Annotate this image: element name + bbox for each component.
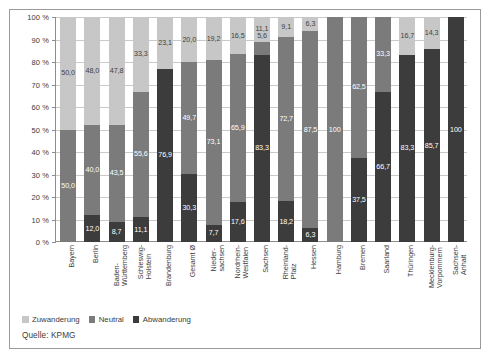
x-axis-category-label: Saarland	[383, 245, 391, 273]
bar-value-label: 49,7	[182, 114, 196, 121]
bar-value-label: 66,7	[376, 163, 390, 170]
bar-segment-abwanderung[interactable]: 6,3	[302, 228, 318, 242]
bar-segment-neutral[interactable]: 73,1	[206, 60, 222, 224]
bar-column[interactable]: 100Hamburg	[327, 17, 343, 241]
bar-value-label: 33,3	[376, 50, 390, 57]
y-axis-tick-label: 100 %	[27, 13, 49, 22]
x-axis-category-label: Nieder-sachsen	[210, 245, 226, 271]
bar-value-label: 19,2	[207, 35, 221, 42]
bar-segment-abwanderung[interactable]: 11,1	[133, 217, 149, 242]
bar-segment-neutral[interactable]: 5,6	[254, 42, 270, 55]
bar-segment-zuwanderung[interactable]: 50,0	[60, 17, 76, 130]
bar-column[interactable]: 9,172,718,2Rheinland-Pfalz	[278, 17, 294, 241]
bar-column[interactable]: 100Sachsen-Anhalt	[448, 17, 464, 241]
bar-value-label: 7,7	[209, 229, 219, 236]
bar-value-label: 8,7	[112, 228, 122, 235]
bar-segment-neutral[interactable]: 62,5	[351, 17, 367, 158]
bar-segment-neutral[interactable]: 72,7	[278, 37, 294, 201]
bar-column[interactable]: 33,355,611,1Schleswig-Holstein	[133, 17, 149, 241]
bar-segment-zuwanderung[interactable]: 14,3	[424, 17, 440, 49]
bar-segment-abwanderung[interactable]: 76,9	[157, 69, 173, 242]
bar-segment-zuwanderung[interactable]: 33,3	[133, 17, 149, 92]
bar-segment-zuwanderung[interactable]: 48,0	[84, 17, 100, 125]
bar-value-label: 16,7	[401, 32, 415, 39]
x-axis-category-label: Gesamt Ø	[189, 245, 197, 277]
bar-value-label: 37,5	[352, 196, 366, 203]
bar-segment-neutral[interactable]: 55,6	[133, 92, 149, 217]
bar-segment-zuwanderung[interactable]: 16,7	[399, 17, 415, 55]
bar-value-label: 20,0	[182, 36, 196, 43]
bar-segment-zuwanderung[interactable]: 16,5	[230, 17, 246, 54]
y-axis-tick-label: 80 %	[32, 58, 50, 67]
bar-column[interactable]: 14,385,7Mecklenburg-Vorpommern	[424, 17, 440, 241]
bar-column[interactable]: 50,050,0Bayern	[60, 17, 76, 241]
bar-value-label: 14,3	[425, 29, 439, 36]
bar-segment-abwanderung[interactable]: 7,7	[206, 225, 222, 242]
bar-value-label: 87,5	[304, 126, 318, 133]
bar-value-label: 17,6	[231, 218, 245, 225]
bar-segment-neutral[interactable]: 40,0	[84, 125, 100, 215]
chart-legend: ZuwanderungNeutralAbwanderung	[22, 315, 191, 324]
bar-column[interactable]: 48,040,012,0Berlin	[84, 17, 100, 241]
bar-segment-abwanderung[interactable]: 83,3	[399, 55, 415, 242]
legend-swatch-icon	[22, 316, 29, 323]
y-axis-tick-label: 70 %	[32, 80, 50, 89]
bar-column[interactable]: 20,049,730,3Gesamt Ø	[181, 17, 197, 241]
bar-column[interactable]: 33,366,7Saarland	[375, 17, 391, 241]
legend-item[interactable]: Abwanderung	[133, 315, 191, 324]
bar-value-label: 23,1	[158, 39, 172, 46]
bar-column[interactable]: 6,387,56,3Hessen	[302, 17, 318, 241]
bar-column[interactable]: 19,273,17,7Nieder-sachsen	[206, 17, 222, 241]
bar-segment-abwanderung[interactable]: 83,3	[254, 55, 270, 242]
bar-column[interactable]: 11,15,683,3Sachsen	[254, 17, 270, 241]
y-axis-tick-label: 40 %	[32, 148, 50, 157]
bar-segment-abwanderung[interactable]: 100	[448, 17, 464, 242]
bar-value-label: 6,3	[306, 231, 316, 238]
legend-label: Neutral	[99, 315, 124, 324]
x-axis-category-label: Baden-Württemberg	[113, 245, 129, 286]
bar-column[interactable]: 16,783,3Thüringen	[399, 17, 415, 241]
bar-value-label: 50,0	[61, 69, 75, 76]
bar-value-label: 48,0	[86, 67, 100, 74]
x-axis-category-label: Brandenburg	[165, 245, 173, 286]
bar-segment-abwanderung[interactable]: 85,7	[424, 49, 440, 242]
legend-item[interactable]: Zuwanderung	[22, 315, 80, 324]
bar-segment-abwanderung[interactable]: 18,2	[278, 201, 294, 242]
bar-segment-zuwanderung[interactable]: 23,1	[157, 17, 173, 69]
bar-column[interactable]: 62,537,5Bremen	[351, 17, 367, 241]
bar-segment-zuwanderung[interactable]: 6,3	[302, 17, 318, 31]
bar-segment-abwanderung[interactable]: 30,3	[181, 174, 197, 242]
bar-segment-neutral[interactable]: 50,0	[60, 130, 76, 243]
bar-segment-abwanderung[interactable]: 66,7	[375, 92, 391, 242]
bar-segment-neutral[interactable]: 65,9	[230, 54, 246, 202]
legend-item[interactable]: Neutral	[89, 315, 124, 324]
bar-column[interactable]: 16,565,917,6Nordrhein-Westfalen	[230, 17, 246, 241]
bar-segment-neutral[interactable]: 49,7	[181, 62, 197, 174]
bar-segment-zuwanderung[interactable]: 20,0	[181, 17, 197, 62]
bar-segment-abwanderung[interactable]: 12,0	[84, 215, 100, 242]
bar-column[interactable]: 23,176,9Brandenburg	[157, 17, 173, 241]
bar-column[interactable]: 47,843,58,7Baden-Württemberg	[109, 17, 125, 241]
bar-segment-neutral[interactable]: 100	[327, 17, 343, 242]
bar-segment-abwanderung[interactable]: 8,7	[109, 222, 125, 242]
bar-segment-abwanderung[interactable]: 37,5	[351, 158, 367, 242]
bar-segment-zuwanderung[interactable]: 19,2	[206, 17, 222, 60]
bar-segment-neutral[interactable]: 87,5	[302, 31, 318, 228]
bar-segment-zuwanderung[interactable]: 9,1	[278, 17, 294, 37]
bar-segment-neutral[interactable]: 33,3	[375, 17, 391, 92]
bar-value-label: 100	[329, 126, 341, 133]
bar-value-label: 9,1	[281, 23, 291, 30]
x-axis-category-label: Hessen	[310, 245, 318, 269]
bar-segment-abwanderung[interactable]: 17,6	[230, 202, 246, 242]
plot-area: 0 %10 %20 %30 %40 %50 %60 %70 %80 %90 %1…	[55, 17, 467, 242]
bar-segment-zuwanderung[interactable]: 47,8	[109, 17, 125, 125]
bar-value-label: 73,1	[207, 138, 221, 145]
bar-value-label: 50,0	[61, 182, 75, 189]
x-axis-category-label: Sachsen	[262, 245, 270, 273]
bar-value-label: 43,5	[110, 169, 124, 176]
bar-value-label: 11,1	[134, 226, 147, 233]
bar-value-label: 65,9	[231, 124, 245, 131]
bar-segment-neutral[interactable]: 43,5	[109, 125, 125, 223]
x-axis-category-label: Mecklenburg-Vorpommern	[428, 245, 444, 288]
y-axis-tick	[52, 242, 56, 243]
